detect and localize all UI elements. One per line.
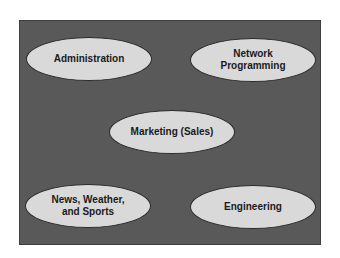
node-news-weather-sports: News, Weather, and Sports [25,184,151,228]
node-label: Engineering [224,201,282,213]
node-label: Network Programming [220,48,285,72]
node-label: News, Weather, and Sports [51,194,124,218]
node-engineering: Engineering [190,185,316,229]
node-administration: Administration [26,37,152,81]
node-label: Marketing (Sales) [131,126,214,138]
node-network-programming: Network Programming [190,38,316,82]
node-label: Administration [54,53,125,65]
node-marketing: Marketing (Sales) [109,110,235,154]
